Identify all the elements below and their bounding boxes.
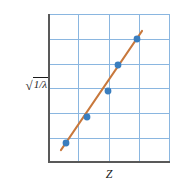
data-point bbox=[105, 88, 112, 95]
data-point bbox=[84, 114, 91, 121]
best-fit-line bbox=[61, 31, 142, 150]
data-layer bbox=[48, 14, 170, 163]
plot-area bbox=[48, 14, 170, 163]
data-point bbox=[63, 140, 70, 147]
data-point bbox=[115, 62, 122, 69]
data-point bbox=[134, 36, 141, 43]
moseley-plot-figure: √1/λ Z bbox=[0, 0, 182, 191]
y-axis-radicand: 1/λ bbox=[33, 77, 48, 90]
y-axis-label: √1/λ bbox=[6, 77, 48, 92]
radical-sign: √ bbox=[26, 79, 33, 92]
x-axis-label: Z bbox=[48, 168, 170, 180]
